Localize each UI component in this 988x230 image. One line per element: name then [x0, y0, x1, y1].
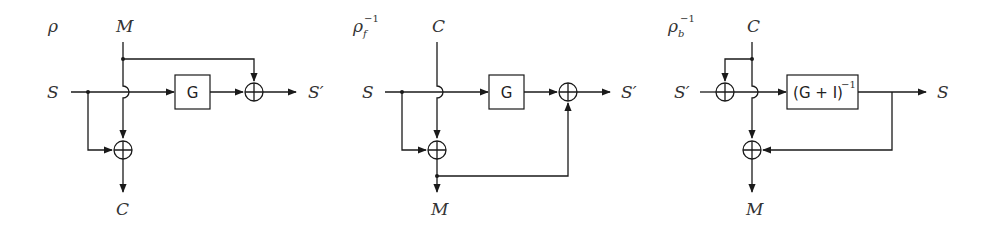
box-label-superscript: −1 [841, 79, 856, 90]
xor-icon [743, 141, 761, 159]
title-superscript: −1 [364, 13, 379, 24]
wire-feed-left [725, 59, 752, 81]
wire-top-vertical [123, 42, 129, 138]
right-output-label: S′ [621, 82, 637, 102]
diagram-rho: ρ M S S′ C G [47, 16, 324, 219]
left-input-label: S′ [674, 82, 690, 102]
title-symbol: ρ [352, 16, 363, 36]
title-subscript: b [678, 28, 684, 39]
xor-icon [559, 83, 577, 101]
title-subscript: f [362, 28, 369, 39]
bottom-output-label: M [430, 199, 449, 219]
title-superscript: −1 [680, 13, 695, 24]
xor-icon [428, 141, 446, 159]
top-input-label: M [115, 16, 134, 36]
title-rho: ρ [47, 16, 58, 36]
g-box-label: G [187, 84, 199, 102]
xor-icon [114, 141, 132, 159]
right-output-label: S′ [308, 82, 324, 102]
left-input-label: S [362, 82, 374, 102]
diagram-canvas: ρ M S S′ C G ρ f −1 C [0, 0, 988, 230]
wire-top-vertical [752, 42, 758, 138]
xor-icon [245, 83, 263, 101]
top-input-label: C [432, 16, 445, 36]
g-box-label: G [501, 84, 513, 102]
diagram-rho-b-inverse: ρ b −1 C S′ S M (G + I) −1 [667, 13, 949, 219]
wire-feedback [437, 103, 568, 176]
bottom-output-label: C [116, 199, 129, 219]
bottom-output-label: M [745, 199, 764, 219]
right-output-label: S [937, 82, 949, 102]
box-label: (G + I) [793, 84, 843, 102]
title-symbol: ρ [667, 16, 678, 36]
wire-branch [88, 92, 112, 150]
wire-branch [402, 92, 426, 150]
xor-icon [716, 83, 734, 101]
left-input-label: S [47, 82, 59, 102]
top-input-label: C [747, 16, 760, 36]
diagram-rho-f-inverse: ρ f −1 C S S′ M G [352, 13, 637, 219]
wire-top-vertical [437, 42, 443, 138]
